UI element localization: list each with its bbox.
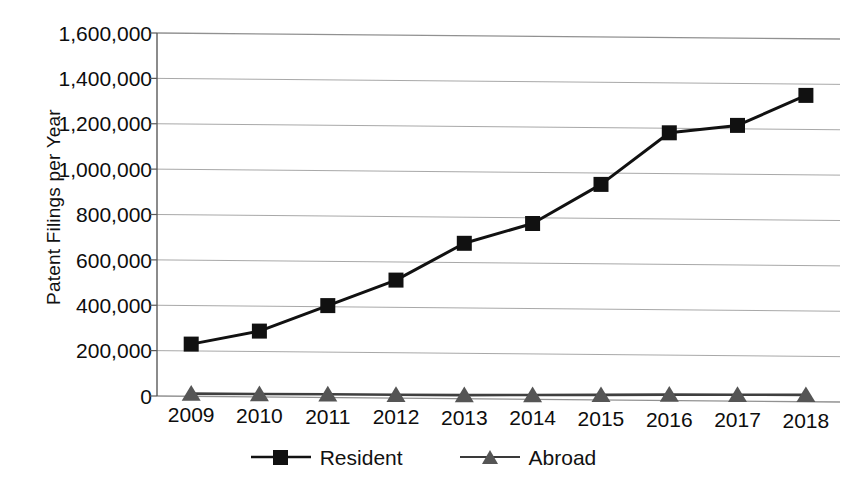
legend-item-resident: Resident: [250, 447, 403, 468]
legend-label-abroad: Abroad: [529, 447, 597, 468]
x-tick-label: 2016: [633, 409, 705, 430]
x-tick-label: 2018: [770, 410, 842, 431]
legend-item-abroad: Abroad: [459, 447, 597, 468]
x-tick-label: 2015: [565, 408, 637, 429]
x-tick-label: 2009: [155, 404, 227, 425]
x-tick-label: 2014: [497, 407, 569, 428]
x-tick-label: 2010: [223, 405, 295, 426]
x-axis-tick-labels: 2009201020112012201320142015201620172018: [0, 0, 846, 488]
x-tick-label: 2012: [360, 406, 432, 427]
chart-legend: Resident Abroad: [0, 440, 846, 474]
x-tick-label: 2011: [292, 406, 364, 427]
x-tick-label: 2017: [702, 409, 774, 430]
triangle-marker-icon: [459, 448, 521, 466]
legend-label-resident: Resident: [320, 447, 403, 468]
square-marker-icon: [250, 448, 312, 466]
line-chart: Patent Filings per Year 1,600,000 1,400,…: [0, 0, 846, 488]
x-tick-label: 2013: [428, 407, 500, 428]
